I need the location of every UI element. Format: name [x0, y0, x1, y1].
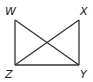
geometry-diagram: W X Y Z: [0, 0, 93, 82]
vertex-label-w: W: [5, 5, 17, 18]
vertex-label-y: Y: [80, 68, 88, 81]
vertex-label-x: X: [79, 5, 88, 18]
vertex-label-z: Z: [4, 68, 13, 81]
